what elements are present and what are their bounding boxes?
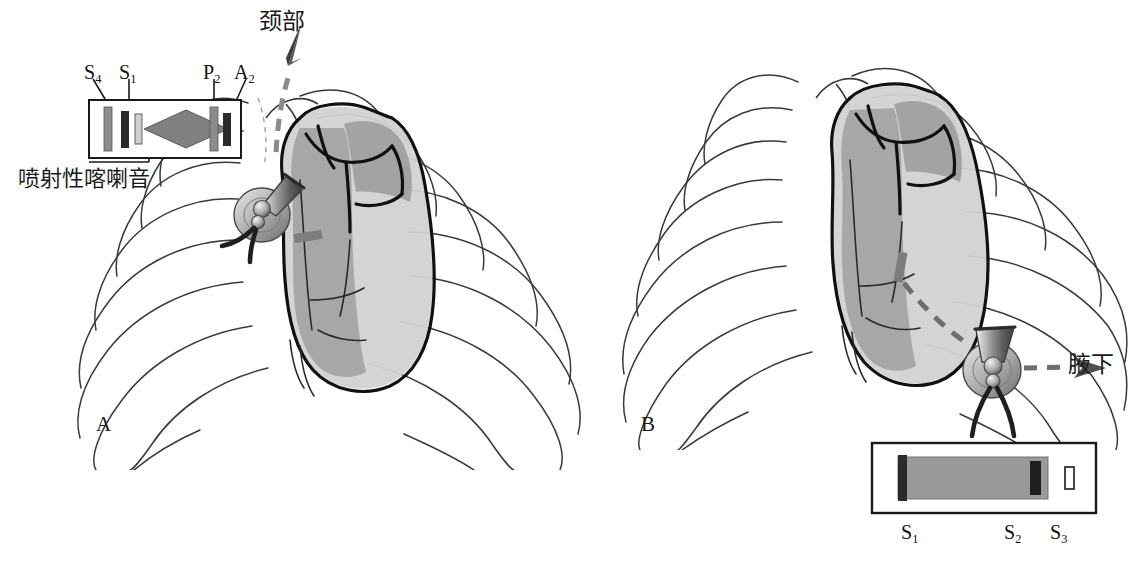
bar-s1-b [898,455,907,501]
annotation-ejection-click: 喷射性喀喇音 [18,168,150,190]
panel-b-illustration [620,40,1129,450]
bar-s1 [121,111,129,148]
label-s1-a: S1 [119,62,136,82]
heart-silhouette [284,107,433,389]
bar-a2 [223,113,231,146]
bar-s3-b [1065,467,1074,489]
label-s2-b: S2 [1004,522,1021,542]
rib-lines-left-b [623,75,812,450]
bar-s2-b [1030,461,1041,495]
label-s1-b: S1 [901,522,918,542]
figure-canvas: S4 S1 P2 A2 喷射性喀喇音 颈部 腋下 A B S1 S2 S3 [0,0,1129,563]
panel-b-phonocardiogram [860,435,1105,520]
label-a2: A2 [234,62,255,82]
label-radiation-neck: 颈部 [259,10,305,33]
label-s3-b: S3 [1050,522,1067,542]
label-p2: P2 [203,62,220,82]
label-s4: S4 [84,62,101,82]
bar-ejection-click [135,114,142,144]
bar-p2 [210,107,218,151]
panel-letter-a: A [96,414,111,435]
label-radiation-axilla: 腋下 [1068,353,1114,376]
murmur-rectangular [898,457,1048,499]
bar-s4 [104,107,112,151]
panel-letter-b: B [641,414,655,435]
